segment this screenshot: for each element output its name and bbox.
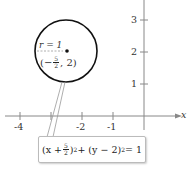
center-label: (− 52 , 2) [40,56,77,69]
center-fraction: 52 [53,56,59,69]
y-tick-label: 3 [131,14,137,25]
center-point [65,49,69,53]
equation-box: (x + 52 ) 2 + (y − 2) 2 = 1 [38,136,146,163]
y-tick-label: 1 [131,78,137,89]
x-tick-label: -2 [76,121,85,132]
x-tick-label: -1 [107,121,116,132]
radius-label: r = 1 [39,40,62,50]
x-axis-label: x [181,109,186,120]
x-tick-label: -4 [14,121,23,132]
y-tick-label: 2 [131,46,137,57]
equation-fraction: 52 [63,143,69,156]
